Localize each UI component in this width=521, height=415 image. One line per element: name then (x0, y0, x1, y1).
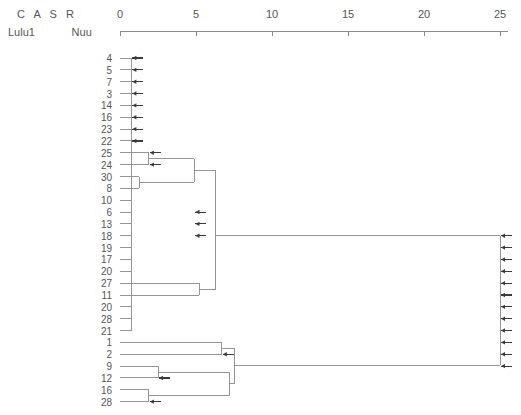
dendrogram-canvas (0, 0, 521, 415)
arrow-marks-layer (132, 56, 512, 404)
axis-layer (120, 31, 508, 36)
tree-layer (120, 58, 500, 402)
dendrogram-figure: C A S R Lulu1 Nuu 0 5 10 15 20 25 457314… (0, 0, 521, 415)
